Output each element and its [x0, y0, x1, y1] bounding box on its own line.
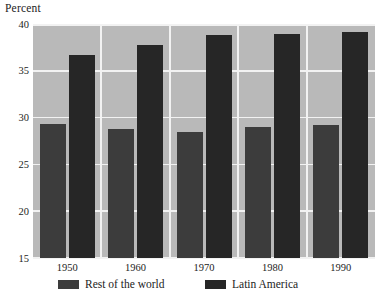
category-separator	[100, 24, 102, 258]
category-separator	[237, 24, 239, 258]
legend-swatch-icon	[205, 280, 226, 289]
x-axis-tick-labels: 19501960197019801990	[33, 261, 375, 277]
category-separator	[306, 24, 308, 258]
legend-label: Rest of the world	[85, 278, 165, 291]
y-tick-label: 40	[3, 19, 29, 30]
bar-1960-rest-of-the-world	[108, 129, 134, 258]
category-separator	[169, 24, 171, 258]
bar-1950-latin-america	[69, 55, 95, 258]
bar-1980-latin-america	[274, 34, 300, 258]
y-axis-tick-labels: 152025303540	[0, 24, 29, 258]
y-tick-label: 15	[3, 253, 29, 264]
bar-1960-latin-america	[137, 45, 163, 258]
y-tick-label: 25	[3, 159, 29, 170]
y-tick-label: 30	[3, 112, 29, 123]
bar-1990-rest-of-the-world	[313, 125, 339, 258]
y-axis-label: Percent	[5, 2, 41, 15]
y-tick-label: 35	[3, 65, 29, 76]
x-tick-label-1990: 1990	[330, 261, 351, 274]
legend-label: Latin America	[232, 278, 298, 291]
bar-1980-rest-of-the-world	[245, 127, 271, 258]
bar-1950-rest-of-the-world	[40, 124, 66, 258]
x-tick-label-1980: 1980	[262, 261, 283, 274]
legend-item-rest-of-the-world[interactable]: Rest of the world	[58, 278, 165, 291]
legend-item-latin-america[interactable]: Latin America	[205, 278, 298, 291]
bar-1970-rest-of-the-world	[177, 132, 203, 258]
x-tick-label-1970: 1970	[194, 261, 215, 274]
gridline	[33, 24, 375, 26]
y-tick-label: 20	[3, 206, 29, 217]
bar-1970-latin-america	[206, 35, 232, 258]
plot-area	[33, 24, 375, 258]
chart-legend: Rest of the worldLatin America	[33, 278, 375, 294]
x-tick-label-1950: 1950	[57, 261, 78, 274]
legend-swatch-icon	[58, 280, 79, 289]
x-tick-label-1960: 1960	[125, 261, 146, 274]
bar-chart-figure: Percent 152025303540 1950196019701980199…	[0, 0, 387, 299]
bar-1990-latin-america	[342, 32, 368, 259]
